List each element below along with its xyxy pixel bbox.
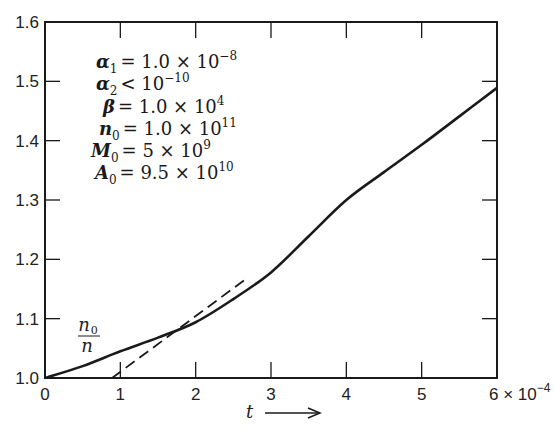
axis-labels: t xyxy=(246,401,320,422)
curve-label: n0n xyxy=(78,314,100,356)
y-tick-label: 1.6 xyxy=(15,13,39,32)
x-tick-label: 5 xyxy=(417,385,426,404)
y-tick-label: 1.3 xyxy=(15,191,39,210)
y-tick-label: 1.1 xyxy=(15,310,39,329)
x-tick-label: 0 xyxy=(40,385,49,404)
parameter-line: M0= 5 × 109 xyxy=(90,138,211,165)
y-tick-label: 1.2 xyxy=(15,250,39,269)
parameter-annotations: α1= 1.0 × 10−8α2< 10−10β= 1.0 × 104n0= 1… xyxy=(90,49,237,187)
y-tick-label: 1.5 xyxy=(15,72,39,91)
svg-text:n: n xyxy=(81,335,93,356)
y-tick-label: 1.4 xyxy=(15,132,39,151)
y-tick-label: 1.0 xyxy=(15,369,39,388)
x-tick-label: 1 xyxy=(116,385,125,404)
parameter-line: β= 1.0 × 104 xyxy=(102,94,225,117)
chart-canvas: 0123456 × 10−41.01.11.21.31.41.51.6 n0n … xyxy=(0,0,554,432)
x-axis-label: t xyxy=(246,401,254,422)
x-tick-label: 2 xyxy=(191,385,200,404)
x-tick-label-multiplier: 6 × 10−4 xyxy=(489,381,551,404)
parameter-line: n0= 1.0 × 1011 xyxy=(99,116,237,143)
x-tick-label: 4 xyxy=(342,385,351,404)
x-tick-label: 3 xyxy=(266,385,275,404)
asymptote-dashed-line xyxy=(112,277,248,378)
svg-text:n0: n0 xyxy=(78,314,98,337)
